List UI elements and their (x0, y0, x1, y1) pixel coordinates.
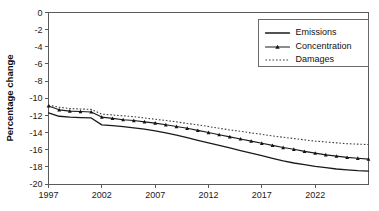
y-tick-label: -6 (34, 59, 42, 69)
y-tick-label: -8 (34, 76, 42, 86)
y-tick-label: 0 (37, 8, 42, 18)
series-layer (47, 104, 371, 171)
y-tick-label: -16 (29, 145, 42, 155)
x-tick-label: 2017 (252, 190, 272, 200)
series-line-emissions (49, 113, 369, 171)
y-axis-title: Percentage change (4, 54, 15, 141)
series-line-damages (49, 105, 369, 144)
legend-label-emissions: Emissions (296, 27, 338, 37)
line-chart: 0-2-4-6-8-10-12-14-16-18-20 199720022007… (0, 0, 379, 211)
x-tick-label: 2012 (198, 190, 218, 200)
y-tick-label: -10 (29, 93, 42, 103)
y-tick-label: -2 (34, 25, 42, 35)
chart-figure: 0-2-4-6-8-10-12-14-16-18-20 199720022007… (0, 0, 379, 211)
chart-legend: EmissionsConcentrationDamages (259, 20, 369, 67)
y-tick-label: -14 (29, 128, 42, 138)
legend-label-damages: Damages (296, 54, 335, 64)
y-tick-label: -18 (29, 162, 42, 172)
x-tick-label: 2022 (305, 190, 325, 200)
legend-label-concentration: Concentration (296, 41, 352, 51)
y-tick-label: -12 (29, 111, 42, 121)
y-tick-label: -20 (29, 179, 42, 189)
x-tick-label: 2002 (92, 190, 112, 200)
x-tick-label: 2007 (145, 190, 165, 200)
x-tick-label: 1997 (38, 190, 58, 200)
x-axis-ticks: 199720022007201220172022 (38, 184, 325, 200)
y-tick-label: -4 (34, 42, 42, 52)
y-axis-ticks: 0-2-4-6-8-10-12-14-16-18-20 (29, 8, 48, 190)
